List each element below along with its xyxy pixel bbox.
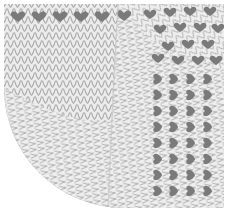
knitted-swatch-image: Knitted swatch with heart motif corner [0,0,229,212]
swatch-graphic [0,0,229,212]
